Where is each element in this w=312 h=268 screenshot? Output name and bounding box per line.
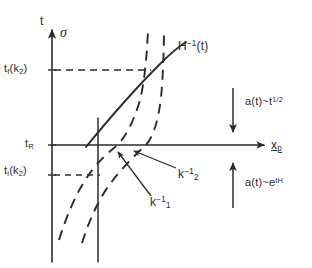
curve-label-hubble-sup: −1 — [187, 39, 197, 48]
figure-canvas: t σ xp tf(k2) tR ti(k2) H−1(t) k−12 k−11… — [0, 0, 312, 268]
curve-label-hubble-base: H — [178, 39, 187, 53]
axis-label-sigma-text: σ — [60, 25, 67, 40]
annotation-inflation-exp: tH — [275, 176, 283, 185]
axis-label-time-text: t — [40, 14, 44, 28]
tick-label-tR: tR — [25, 138, 34, 151]
annotation-inflation-tilde: ~ — [262, 176, 269, 188]
curve-label-hubble-arg: (t) — [197, 39, 209, 53]
leader-k1 — [118, 152, 151, 196]
annotation-radiation-a: a(t) — [245, 95, 262, 107]
annotation-radiation-tilde: ~ — [262, 95, 269, 107]
axis-label-comoving-sub: p — [277, 144, 282, 153]
axis-label-comoving: xp — [271, 139, 282, 153]
annotation-radiation-exp: 1/2 — [272, 95, 283, 104]
annotation-radiation-era: a(t)~t1/2 — [245, 96, 283, 107]
curve-label-hubble-radius: H−1(t) — [178, 40, 209, 52]
curve-label-mode-k1: k−11 — [150, 196, 171, 210]
curve-label-k1-sup: −1 — [156, 195, 166, 204]
tick-label-ti: ti(k2) — [4, 165, 27, 178]
curve-label-k2-sup: −1 — [184, 167, 194, 176]
annotation-inflation-era: a(t)~etH — [245, 177, 283, 188]
axis-label-sigma: σ — [60, 26, 67, 40]
annotation-inflation-a: a(t) — [245, 176, 262, 188]
diagram-svg — [0, 0, 312, 268]
axis-label-time: t — [40, 15, 44, 27]
mode-k2-curve — [59, 30, 148, 240]
tick-label-tf: tf(k2) — [4, 63, 27, 76]
tick-label-ti-arg-end: ) — [23, 164, 27, 176]
hubble-radius-curve — [86, 42, 186, 147]
tick-label-tf-arg-end: ) — [23, 62, 27, 74]
curve-label-k2-sub: 2 — [194, 173, 199, 182]
curve-label-k1-sub: 1 — [166, 201, 171, 210]
tick-label-tR-sub: R — [28, 142, 34, 151]
leader-k2 — [134, 151, 176, 168]
tick-label-tf-arg: (k — [10, 62, 20, 74]
tick-label-ti-arg: (k — [9, 164, 19, 176]
curve-label-mode-k2: k−12 — [178, 168, 199, 182]
